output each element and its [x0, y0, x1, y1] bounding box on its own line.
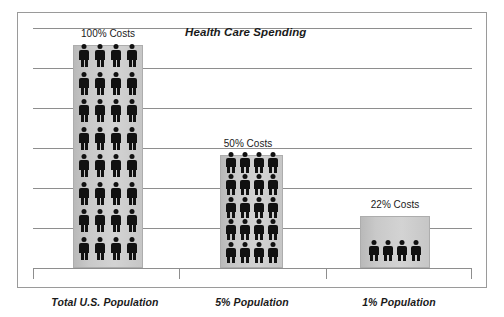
- person-icon: [382, 240, 394, 262]
- person-icon: [126, 154, 139, 178]
- person-icon: [239, 219, 251, 240]
- person-icon: [110, 72, 123, 96]
- person-icon: [253, 197, 265, 218]
- pictogram-row: [76, 237, 140, 261]
- pictogram-row: [224, 197, 280, 218]
- person-icon: [396, 240, 408, 262]
- person-icon: [267, 197, 279, 218]
- person-icon: [78, 209, 91, 233]
- pictogram-row: [76, 44, 140, 68]
- person-icon: [126, 127, 139, 151]
- person-icon: [410, 240, 422, 262]
- person-icon: [78, 237, 91, 261]
- category-label-1-percent-population: 1% Population: [328, 296, 470, 308]
- person-icon: [94, 72, 107, 96]
- person-icon: [110, 237, 123, 261]
- pictogram-row: [76, 154, 140, 178]
- person-icon: [94, 237, 107, 261]
- person-icon: [126, 99, 139, 123]
- person-icon: [110, 44, 123, 68]
- person-icon: [267, 174, 279, 195]
- category-label-total-us-population: Total U.S. Population: [30, 296, 180, 308]
- x-axis-tick-start: [33, 268, 34, 279]
- person-icon: [94, 209, 107, 233]
- x-axis-tick-end: [471, 268, 472, 279]
- person-icon: [267, 242, 279, 263]
- person-icon: [126, 182, 139, 206]
- person-icon: [110, 99, 123, 123]
- person-icon: [126, 72, 139, 96]
- person-icon: [110, 127, 123, 151]
- x-axis-line: [33, 268, 472, 269]
- person-icon: [78, 72, 91, 96]
- person-icon: [239, 197, 251, 218]
- bar-value-label-3: 22% Costs: [360, 199, 430, 210]
- person-icon: [110, 182, 123, 206]
- person-icon: [94, 127, 107, 151]
- chart-title: Health Care Spending: [185, 26, 307, 38]
- person-icon: [368, 240, 380, 262]
- person-icon: [126, 44, 139, 68]
- person-icon: [94, 182, 107, 206]
- person-icon: [225, 197, 237, 218]
- health-care-spending-chart: Health Care Spending 100% Costs 50% Cost…: [0, 0, 504, 317]
- person-icon: [110, 209, 123, 233]
- person-icon: [126, 209, 139, 233]
- person-icon: [225, 152, 237, 173]
- pictogram-row: [76, 99, 140, 123]
- x-axis-tick-divider-2: [326, 268, 327, 279]
- person-icon: [253, 242, 265, 263]
- person-icon: [94, 44, 107, 68]
- pictogram-row: [76, 209, 140, 233]
- person-icon: [78, 44, 91, 68]
- person-icon: [253, 219, 265, 240]
- person-icon: [225, 219, 237, 240]
- person-icon: [267, 219, 279, 240]
- person-icon: [239, 152, 251, 173]
- person-icon: [94, 99, 107, 123]
- person-icon: [126, 237, 139, 261]
- bar-5-percent-population[interactable]: [220, 155, 283, 268]
- person-icon: [253, 152, 265, 173]
- person-icon: [110, 154, 123, 178]
- person-icon: [78, 127, 91, 151]
- person-icon: [225, 174, 237, 195]
- pictogram-row: [224, 174, 280, 195]
- person-icon: [78, 154, 91, 178]
- person-icon: [267, 152, 279, 173]
- pictogram-row: [224, 152, 280, 173]
- bar-1-percent-population[interactable]: [360, 216, 430, 268]
- category-label-5-percent-population: 5% Population: [181, 296, 323, 308]
- pictogram-row: [76, 127, 140, 151]
- person-icon: [239, 174, 251, 195]
- person-icon: [78, 182, 91, 206]
- person-icon: [225, 242, 237, 263]
- pictogram-row: [224, 219, 280, 240]
- person-icon: [94, 154, 107, 178]
- person-icon: [78, 99, 91, 123]
- pictogram-row: [224, 242, 280, 263]
- bar-value-label-2: 50% Costs: [213, 138, 283, 149]
- bar-value-label-1: 100% Costs: [73, 28, 143, 39]
- bar-total-us-population[interactable]: [73, 45, 143, 268]
- pictogram-row: [76, 72, 140, 96]
- person-icon: [239, 242, 251, 263]
- person-icon: [253, 174, 265, 195]
- x-axis-tick-divider-1: [179, 268, 180, 279]
- pictogram-row: [367, 240, 423, 262]
- pictogram-row: [76, 182, 140, 206]
